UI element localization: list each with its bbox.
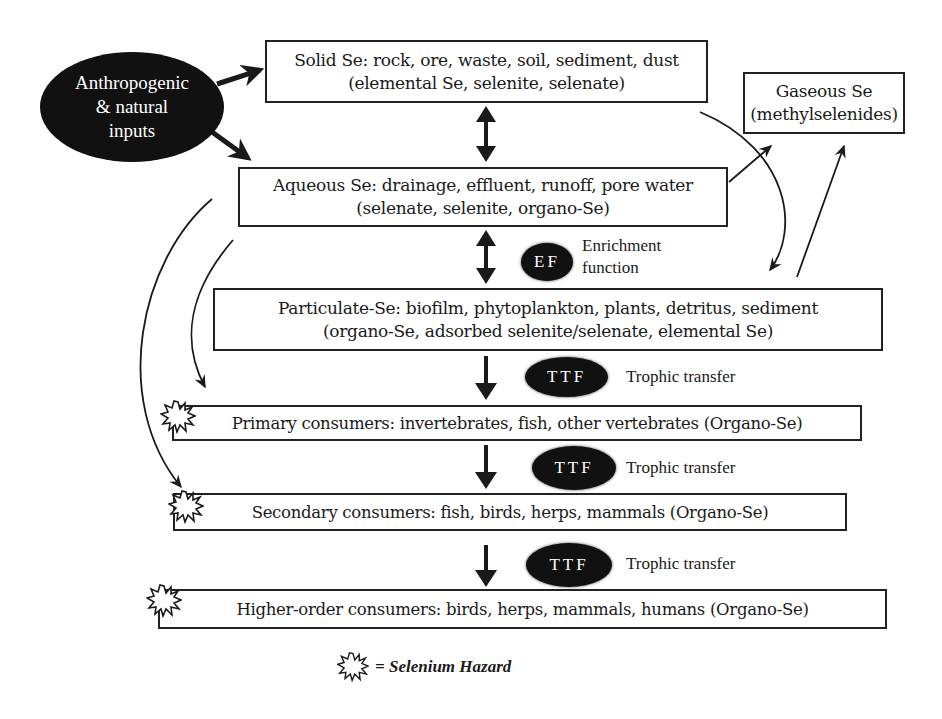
solid-se-line1: Solid Se: rock, ore, waste, soil, sedime… — [294, 49, 679, 72]
hazard-burst-icon — [168, 490, 204, 524]
arrow-primary-to-secondary — [475, 445, 497, 489]
arrow-inputs-to-aqueous — [212, 132, 248, 158]
ef-label-line1: Enrichment — [582, 235, 661, 257]
legend-text: = Selenium Hazard — [375, 657, 511, 677]
ef-badge: EF — [521, 243, 573, 281]
gaseous-se-line1: Gaseous Se — [776, 80, 873, 103]
node-primary-consumers: Primary consumers: invertebrates, fish, … — [172, 405, 862, 441]
gaseous-se-line2: (methylselenides) — [750, 103, 898, 126]
ttf-badge-3: TTF — [526, 543, 612, 587]
particulate-se-line1: Particulate-Se: biofilm, phytoplankton, … — [278, 297, 818, 320]
hazard-burst-icon — [337, 650, 369, 684]
arrow-particulate-to-gaseous — [797, 146, 844, 277]
hazard-burst-icon — [160, 400, 196, 434]
arrow-secondary-to-higher — [475, 545, 497, 587]
node-gaseous-se: Gaseous Se (methylselenides) — [743, 72, 905, 134]
hazard-burst-icon — [146, 584, 182, 618]
ttf-badge-1-text: TTF — [547, 367, 586, 387]
ttf-label-3: Trophic transfer — [626, 553, 735, 575]
inputs-label-line3: inputs — [109, 119, 155, 143]
solid-se-line2: (elemental Se, selenite, selenate) — [348, 72, 625, 95]
arrow-aqueous-to-gaseous — [729, 146, 771, 182]
aqueous-se-line2: (selenate, selenite, organo-Se) — [356, 197, 609, 220]
primary-consumers-text: Primary consumers: invertebrates, fish, … — [232, 412, 803, 435]
secondary-consumers-text: Secondary consumers: fish, birds, herps,… — [252, 501, 769, 524]
ttf-label-2: Trophic transfer — [626, 457, 735, 479]
arrow-aqueous-particulate-bidirectional — [476, 230, 496, 284]
inputs-label-line2: & natural — [96, 95, 168, 119]
aqueous-se-line1: Aqueous Se: drainage, effluent, runoff, … — [273, 174, 693, 197]
ttf-label-1: Trophic transfer — [626, 366, 735, 388]
arrow-aqueous-to-secondary-curve — [141, 199, 212, 487]
inputs-oval: Anthropogenic & natural inputs — [40, 52, 224, 162]
ttf-badge-1: TTF — [525, 357, 608, 397]
node-aqueous-se: Aqueous Se: drainage, effluent, runoff, … — [238, 167, 728, 227]
ef-badge-text: EF — [534, 252, 560, 272]
node-secondary-consumers: Secondary consumers: fish, birds, herps,… — [173, 493, 847, 531]
node-particulate-se: Particulate-Se: biofilm, phytoplankton, … — [213, 288, 883, 351]
ttf-badge-3-text: TTF — [549, 555, 588, 575]
node-higher-order-consumers: Higher-order consumers: birds, herps, ma… — [158, 589, 887, 629]
ttf-badge-2-text: TTF — [554, 458, 593, 478]
ef-label: Enrichment function — [582, 235, 661, 279]
arrow-particulate-to-primary — [475, 356, 497, 400]
particulate-se-line2: (organo-Se, adsorbed selenite/selenate, … — [323, 320, 773, 343]
arrow-solid-aqueous-bidirectional — [476, 106, 496, 162]
higher-order-consumers-text: Higher-order consumers: birds, herps, ma… — [236, 598, 808, 621]
ttf-badge-2: TTF — [532, 446, 616, 490]
node-solid-se: Solid Se: rock, ore, waste, soil, sedime… — [265, 40, 708, 103]
ef-label-line2: function — [582, 257, 661, 279]
inputs-label-line1: Anthropogenic — [75, 71, 189, 95]
legend: = Selenium Hazard — [337, 650, 511, 684]
arrow-inputs-to-solid — [217, 70, 260, 84]
